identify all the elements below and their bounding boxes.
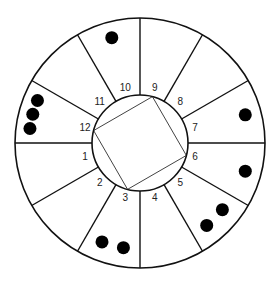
segment-dot	[117, 241, 130, 254]
wheel-lines	[15, 18, 265, 268]
segment-dot	[216, 203, 229, 216]
segment-divider	[32, 167, 99, 206]
segment-label: 1	[82, 151, 88, 162]
segment-divider	[164, 185, 203, 252]
segment-label: 4	[152, 192, 158, 203]
segment-divider	[78, 35, 117, 102]
segment-label: 11	[94, 96, 105, 107]
segment-label: 9	[152, 82, 158, 93]
inscribed-square	[94, 97, 187, 190]
segment-dot	[23, 122, 36, 135]
segment-divider	[164, 35, 203, 102]
segment-label: 6	[192, 151, 198, 162]
segment-label: 8	[178, 96, 184, 107]
segment-dot	[26, 108, 39, 121]
segment-dot	[96, 235, 109, 248]
segment-dot	[31, 94, 44, 107]
segment-label: 5	[178, 177, 184, 188]
segment-dot	[200, 219, 213, 232]
segment-dot	[105, 31, 118, 44]
segment-label: 2	[97, 177, 103, 188]
segment-divider	[182, 81, 249, 120]
segment-label: 7	[192, 122, 198, 133]
segment-dot	[239, 108, 252, 121]
segment-labels: 987654321121110	[79, 82, 198, 203]
inner-circle	[92, 95, 188, 191]
segment-label: 3	[122, 192, 128, 203]
segment-label: 10	[120, 82, 132, 93]
segment-divider	[182, 167, 249, 206]
segmented-wheel-diagram: 987654321121110	[0, 0, 275, 283]
segment-dot	[239, 165, 252, 178]
segment-label: 12	[79, 122, 91, 133]
